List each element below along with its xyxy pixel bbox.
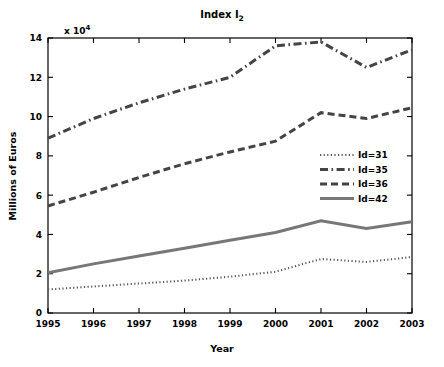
legend-label-id-35: Id=35: [358, 165, 388, 175]
y-multiplier-base: x 10: [64, 26, 85, 36]
x-tick-label: 1997: [126, 319, 151, 329]
line-chart: Index I2 x 104 02468101214 1995199619971…: [0, 0, 444, 367]
legend-label-id-42: Id=42: [358, 194, 388, 204]
y-multiplier-exponent: 4: [85, 24, 90, 32]
y-tick-label: 8: [36, 151, 42, 161]
x-axis-title: Year: [209, 343, 234, 354]
x-tick-label: 1998: [172, 319, 197, 329]
x-tick-label: 2003: [399, 319, 424, 329]
legend-label-id-36: Id=36: [358, 179, 388, 189]
series-line-id-35: [48, 42, 412, 138]
legend-label-id-31: Id=31: [358, 150, 388, 160]
x-tick-label: 2001: [308, 319, 333, 329]
x-axis-ticks: [48, 38, 412, 313]
y-tick-label: 10: [29, 112, 42, 122]
chart-title-main: Index I: [200, 9, 238, 20]
y-tick-label: 14: [29, 33, 42, 43]
y-tick-label: 0: [36, 308, 42, 318]
chart-figure: Index I2 x 104 02468101214 1995199619971…: [0, 0, 444, 367]
plot-frame: [48, 38, 412, 313]
y-tick-label: 4: [36, 230, 42, 240]
chart-title: Index I2: [200, 9, 244, 23]
y-tick-label: 2: [36, 269, 42, 279]
y-axis-multiplier-label: x 104: [64, 24, 90, 36]
x-tick-label: 1995: [35, 319, 60, 329]
chart-title-subscript: 2: [239, 14, 244, 23]
y-axis-tick-labels: 02468101214: [29, 33, 42, 318]
x-tick-label: 2002: [354, 319, 379, 329]
y-axis-title: Millions of Euros: [7, 131, 18, 220]
chart-legend: Id=31Id=35Id=36Id=42: [320, 150, 388, 204]
x-tick-label: 1996: [81, 319, 106, 329]
x-tick-label: 2000: [263, 319, 288, 329]
y-axis-ticks: [48, 38, 412, 313]
y-tick-label: 6: [36, 191, 42, 201]
x-axis-tick-labels: 199519961997199819992000200120022003: [35, 319, 424, 329]
x-tick-label: 1999: [217, 319, 242, 329]
series-line-id-42: [48, 221, 412, 273]
y-tick-label: 12: [29, 73, 42, 83]
